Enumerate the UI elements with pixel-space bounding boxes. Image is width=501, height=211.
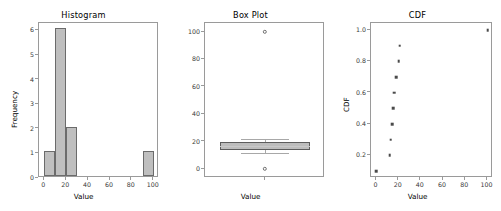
boxplot-ytick [201,113,204,114]
cdf-xtick [375,177,376,180]
cdf-title: CDF [334,10,501,20]
cdf-xtick [442,177,443,180]
boxplot-axes [204,22,324,177]
cdf-xtick [397,177,398,180]
boxplot-title: Box Plot [167,10,334,20]
histogram-ytick [35,54,38,55]
boxplot-yticklabel: 40 [182,110,200,117]
cdf-point [388,154,391,157]
histogram-xticklabel: 60 [105,181,113,188]
boxplot-outlier [263,30,267,34]
cdf-yticklabel: 0.4 [348,119,366,126]
histogram-ylabel: Frequency [10,91,19,128]
cdf-yticklabel: 0.8 [348,57,366,64]
boxplot-ytick [201,168,204,169]
cdf-point [392,107,395,110]
histogram-bars [39,23,157,176]
cdf-point [391,123,394,126]
cdf-ytick [367,123,370,124]
histogram-bar [66,127,77,176]
boxplot-outlier [263,167,267,171]
cdf-yticklabel: 1.0 [348,26,366,33]
boxplot-yticklabel: 0 [182,165,200,172]
cdf-xticklabel: 0 [373,181,377,188]
histogram-yticklabel: 1 [16,149,34,156]
histogram-ytick [35,127,38,128]
cdf-xticklabel: 40 [416,181,424,188]
histogram-xtick [130,177,131,180]
boxplot-ytick [201,31,204,32]
histogram-title: Histogram [0,10,167,20]
boxplot-cap-lower [241,153,289,154]
histogram-axes [38,22,158,177]
histogram-ytick [35,177,38,178]
cdf-axes [370,22,492,177]
histogram-xticklabel: 20 [61,181,69,188]
histogram-xlabel: Value [0,192,167,201]
cdf-xticklabel: 80 [460,181,468,188]
boxplot-xtick [264,177,265,180]
cdf-ytick [367,91,370,92]
cdf-ytick [367,29,370,30]
histogram-yticklabel: 5 [16,50,34,57]
histogram-ytick [35,103,38,104]
cdf-xticklabel: 100 [481,181,493,188]
histogram-xtick [65,177,66,180]
histogram-xticklabel: 40 [83,181,91,188]
cdf-point [390,138,393,141]
cdf-ytick [367,154,370,155]
cdf-xticklabel: 60 [438,181,446,188]
cdf-ylabel: CDF [342,97,351,112]
histogram-yticklabel: 4 [16,75,34,82]
boxplot-yticklabel: 100 [182,27,200,34]
cdf-xtick [419,177,420,180]
cdf-subplot: CDF 0204060801000.20.40.60.81.0 Value CD… [334,0,501,211]
matplotlib-figure: Histogram 0204060801000123456 Value Freq… [0,0,501,211]
boxplot-ytick [201,85,204,86]
histogram-xtick [87,177,88,180]
boxplot-ytick [201,58,204,59]
histogram-yticklabel: 6 [16,26,34,33]
boxplot-glyphs [205,23,323,176]
histogram-ytick [35,152,38,153]
histogram-xtick [43,177,44,180]
cdf-xtick [464,177,465,180]
cdf-yticklabel: 0.2 [348,151,366,158]
histogram-xtick [152,177,153,180]
cdf-xtick [486,177,487,180]
cdf-point [375,170,378,173]
histogram-yticklabel: 0 [16,174,34,181]
cdf-points [371,23,491,176]
histogram-ytick [35,78,38,79]
cdf-point [397,60,400,63]
cdf-point [398,44,401,47]
cdf-point [393,91,396,94]
histogram-xticklabel: 0 [41,181,45,188]
boxplot-yticklabel: 20 [182,137,200,144]
cdf-ytick [367,60,370,61]
histogram-bar [44,151,55,176]
histogram-xtick [109,177,110,180]
histogram-ytick [35,29,38,30]
boxplot-yticklabel: 60 [182,82,200,89]
cdf-yticklabel: 0.6 [348,88,366,95]
histogram-xticklabel: 80 [127,181,135,188]
cdf-point [395,76,398,79]
boxplot-cap-upper [241,139,289,140]
histogram-subplot: Histogram 0204060801000123456 Value Freq… [0,0,167,211]
boxplot-ytick [201,140,204,141]
histogram-bar [143,151,154,176]
boxplot-yticklabel: 80 [182,55,200,62]
boxplot-subplot: Box Plot 020406080100 Value [167,0,334,211]
histogram-xticklabel: 100 [147,181,159,188]
boxplot-median [220,146,310,147]
cdf-point [486,29,489,32]
cdf-xticklabel: 20 [394,181,402,188]
cdf-xlabel: Value [334,192,501,201]
boxplot-xlabel: Value [167,192,334,201]
histogram-bar [55,28,66,176]
